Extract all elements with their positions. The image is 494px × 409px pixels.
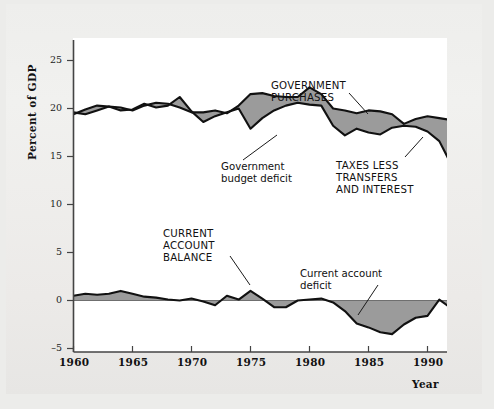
x-axis-title: Year <box>412 378 439 390</box>
y-tick-label-25: 25 <box>42 54 62 65</box>
annotation-government-purchases: GOVERNMENT PURCHASES <box>271 80 346 104</box>
y-tick-label-20: 20 <box>42 102 62 113</box>
annotation-government-budget-deficit: Government budget deficit <box>221 161 292 185</box>
x-tick-label-1960: 1960 <box>59 356 89 368</box>
annotation-current-account-balance: CURRENT ACCOUNT BALANCE <box>163 228 215 264</box>
x-tick-label-1980: 1980 <box>295 356 325 368</box>
x-tick-label-1985: 1985 <box>354 356 384 368</box>
band-government-budget-deficit <box>74 87 448 164</box>
x-tick-label-1965: 1965 <box>118 356 148 368</box>
y-tick-label-5: 5 <box>42 246 62 257</box>
annotation-taxes-less-transfers-and-interest: TAXES LESS TRANSFERS AND INTEREST <box>336 160 414 196</box>
x-tick-label-1970: 1970 <box>177 356 207 368</box>
y-axis-title: Percent of GDP <box>26 64 38 160</box>
figure-container: 25 20 15 10 5 0 –5 Percent of GDP 1960 1… <box>0 0 494 409</box>
x-tick-label-1990: 1990 <box>413 356 443 368</box>
y-tick-label-0: 0 <box>42 294 62 305</box>
x-tick-label-1975: 1975 <box>236 356 266 368</box>
y-tick-label-15: 15 <box>42 150 62 161</box>
y-tick-label-10: 10 <box>42 198 62 209</box>
annotation-current-account-deficit: Current account deficit <box>300 268 382 292</box>
y-axis-title-anchor: Percent of GDP <box>38 40 39 41</box>
y-tick-label-minus5: –5 <box>40 342 62 353</box>
